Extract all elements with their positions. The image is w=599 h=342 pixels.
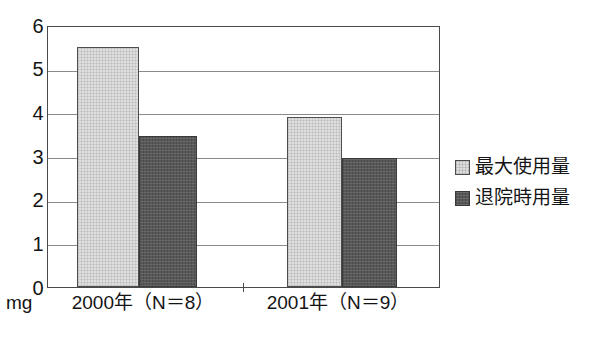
y-tick-label-6: 6 [8, 16, 44, 36]
legend-swatch-discharge-dose-icon [455, 191, 470, 206]
legend: 最大使用量 退院時用量 [455, 155, 595, 217]
y-axis: 6 5 4 3 2 1 0 [0, 0, 44, 342]
x-axis-label-2001: 2001年（N＝9） [253, 292, 423, 314]
legend-label-max-dose: 最大使用量 [475, 156, 570, 178]
y-tick-label-1: 1 [8, 234, 44, 254]
bar-chart: 6 5 4 3 2 1 0 mg 2000年（N＝8） 2001年（N＝9） 最… [0, 0, 599, 342]
y-axis-unit-label: mg [6, 292, 32, 313]
plot-area [47, 26, 440, 288]
bar-2000-discharge-dose [139, 136, 197, 287]
legend-item-max-dose: 最大使用量 [455, 155, 595, 179]
bar-2001-max-dose [287, 117, 342, 287]
y-tick-label-2: 2 [8, 190, 44, 210]
x-axis-group-separator-tick [243, 283, 244, 292]
y-tick-label-3: 3 [8, 147, 44, 167]
bar-2001-discharge-dose [342, 158, 397, 287]
x-axis-label-2000: 2000年（N＝8） [58, 292, 228, 314]
legend-swatch-max-dose-icon [455, 160, 470, 175]
y-tick-label-4: 4 [8, 103, 44, 123]
y-tick-label-5: 5 [8, 59, 44, 79]
legend-item-discharge-dose: 退院時用量 [455, 186, 595, 210]
bar-2000-max-dose [77, 47, 139, 287]
legend-label-discharge-dose: 退院時用量 [475, 187, 570, 209]
